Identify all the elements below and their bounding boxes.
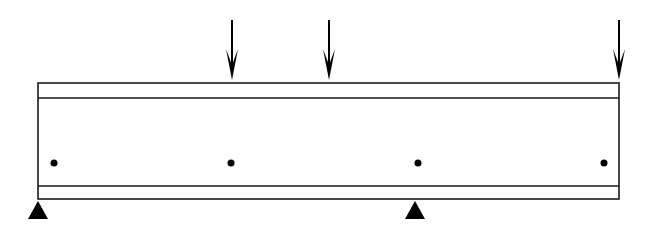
reinforcement-dot <box>228 160 235 167</box>
reinforcement-dot <box>415 160 422 167</box>
beam-outline <box>38 83 619 199</box>
reinforcement-dots <box>51 160 608 167</box>
beam-diagram-svg <box>0 0 648 240</box>
beam-diagram <box>0 0 648 240</box>
support-triangle-icon <box>28 201 48 219</box>
supports <box>28 201 425 219</box>
reinforcement-dot <box>51 160 58 167</box>
point-loads <box>226 20 625 80</box>
down-arrow-icon <box>323 20 335 80</box>
down-arrow-icon <box>613 20 625 80</box>
reinforcement-dot <box>601 160 608 167</box>
beam <box>38 83 619 199</box>
down-arrow-icon <box>226 20 238 80</box>
support-triangle-icon <box>405 201 425 219</box>
